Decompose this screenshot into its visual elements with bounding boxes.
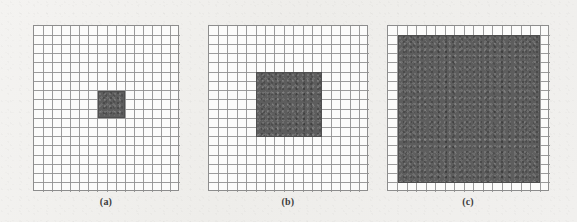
figure-root: (a) (b) (c) bbox=[0, 0, 577, 222]
panel-a: (a) bbox=[33, 25, 179, 191]
grid-c bbox=[387, 25, 549, 191]
grid-a bbox=[33, 25, 179, 191]
shaded-square-b bbox=[256, 72, 322, 137]
shaded-square-c bbox=[398, 35, 541, 183]
panel-b: (b) bbox=[208, 25, 368, 191]
caption-b: (b) bbox=[208, 196, 368, 207]
caption-a: (a) bbox=[33, 196, 179, 207]
shaded-square-a bbox=[98, 91, 125, 119]
panel-c: (c) bbox=[387, 25, 549, 191]
caption-c: (c) bbox=[387, 196, 549, 207]
grid-b bbox=[208, 25, 368, 191]
